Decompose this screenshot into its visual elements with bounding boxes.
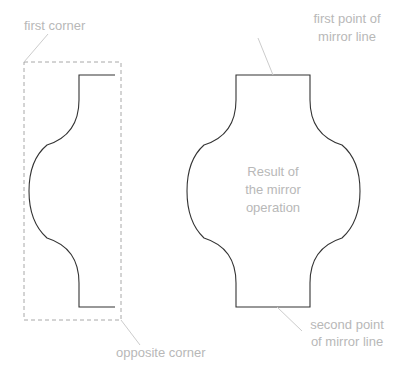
label-first-corner: first corner	[24, 18, 85, 34]
label-second-point-line2: of mirror line	[302, 334, 392, 350]
label-second-point-line1: second point	[302, 317, 392, 333]
selection-window	[24, 62, 121, 320]
label-result-line2: the mirror	[238, 182, 308, 198]
label-first-point-line1: first point of	[302, 11, 392, 27]
original-shape	[29, 75, 115, 307]
leader-first-corner	[24, 34, 48, 62]
label-opposite-corner: opposite corner	[116, 345, 206, 361]
label-result-line1: Result of	[238, 164, 308, 180]
leader-opposite-corner	[121, 320, 140, 345]
leader-first-point	[258, 38, 273, 75]
leader-second-point	[277, 307, 302, 331]
label-first-point-line2: mirror line	[302, 29, 392, 45]
label-result-line3: operation	[238, 200, 308, 216]
